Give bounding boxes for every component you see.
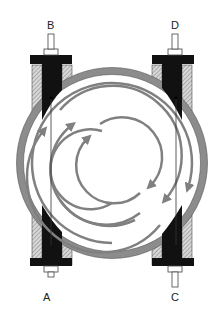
port-label-c: C xyxy=(171,292,179,303)
port-label-d: D xyxy=(171,20,179,31)
diagram-canvas xyxy=(0,0,224,321)
port-label-b: B xyxy=(47,20,54,31)
port-label-a: A xyxy=(43,292,50,303)
